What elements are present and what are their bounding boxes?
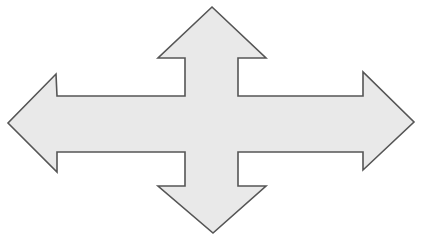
image-canvas: Four-way directional arrow: [0, 0, 423, 240]
four-way-arrow-graphic: Four-way directional arrow: [0, 0, 423, 240]
